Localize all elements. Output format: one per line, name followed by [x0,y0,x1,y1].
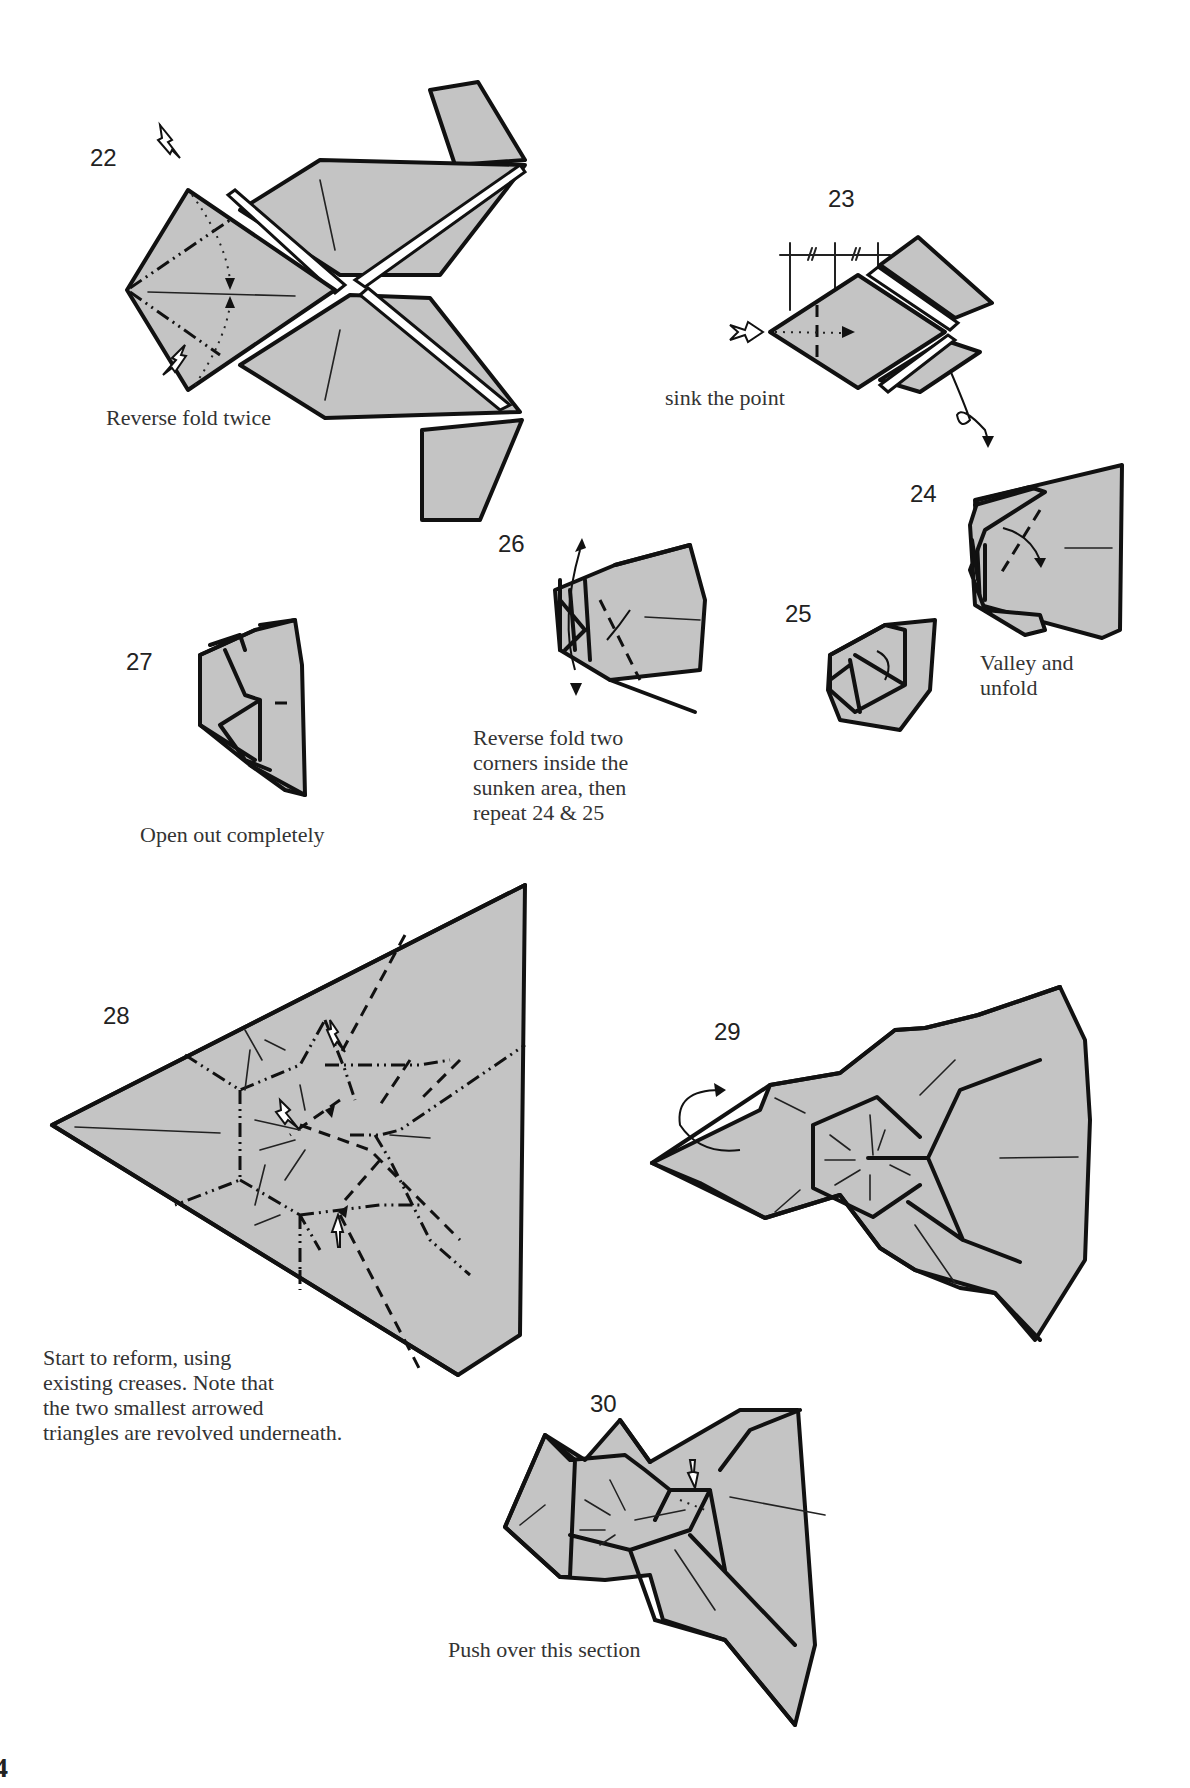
caption-line: triangles are revolved underneath. [43,1420,342,1445]
step-number-24: 24 [910,480,937,508]
hollow-push-arrow-icon [730,322,763,342]
step-26-diagram [555,538,705,712]
lower-flap [422,420,522,520]
step-24-caption: Valley and unfold [980,650,1073,700]
step-number-27: 27 [126,648,153,676]
hollow-push-arrow-icon [158,125,180,158]
caption-line: Valley and [980,650,1073,675]
upper-flap [430,82,525,165]
turn-over-loop-icon [950,370,994,448]
step-number-28: 28 [103,1002,130,1030]
step-22-diagram [127,82,525,520]
page-number: 4 [0,1752,8,1784]
caption-line: unfold [980,675,1073,700]
step-25-diagram [828,620,935,730]
step-number-29: 29 [714,1018,741,1046]
caption-line: corners inside the [473,750,628,775]
step-23-diagram [730,237,994,448]
diagram-artwork [0,0,1190,1788]
step-28-caption: Start to reform, using existing creases.… [43,1345,342,1445]
caption-line: sink the point [665,385,785,410]
step-23-caption: sink the point [665,385,785,410]
caption-line: Push over this section [448,1637,641,1662]
step-number-30: 30 [590,1390,617,1418]
step-27-diagram [200,620,305,795]
caption-line: Reverse fold twice [106,405,271,430]
step-number-25: 25 [785,600,812,628]
arrowhead [570,683,582,696]
caption-line: Start to reform, using [43,1345,342,1370]
step-28-diagram [52,885,525,1375]
caption-line: sunken area, then [473,775,628,800]
step-number-22: 22 [90,144,117,172]
paper-body [828,620,935,730]
step-27-caption: Open out completely [140,822,325,847]
step-number-23: 23 [828,185,855,213]
caption-line: existing creases. Note that [43,1370,342,1395]
caption-line: the two smallest arrowed [43,1395,342,1420]
caption-line: repeat 24 & 25 [473,800,628,825]
step-30-caption: Push over this section [448,1637,641,1662]
step-number-26: 26 [498,530,525,558]
origami-instruction-page: 22 23 24 25 26 27 28 29 30 Reverse fold … [0,0,1190,1788]
caption-line: Reverse fold two [473,725,628,750]
caption-line: Open out completely [140,822,325,847]
arrowhead [575,538,586,552]
step-22-caption: Reverse fold twice [106,405,271,430]
step-24-diagram [970,465,1122,638]
step-26-caption: Reverse fold two corners inside the sunk… [473,725,628,825]
step-30-diagram [505,1410,825,1725]
paper-triangle [52,885,525,1375]
